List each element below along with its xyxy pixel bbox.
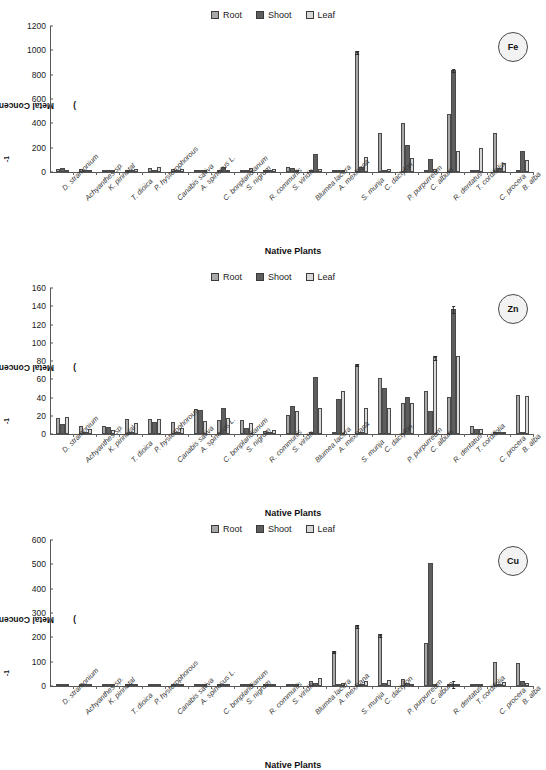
x-axis-labels-zn: D. stramoniumAchyanthes sp.K. pinnatalT.… [51,448,534,506]
legend-item-leaf: Leaf [306,524,336,534]
legend-item-root: Root [211,272,242,282]
bar-leaf [157,167,162,172]
x-axis-title-fe: Native Plants [0,244,546,256]
legend-fe: Root Shoot Leaf [0,0,546,26]
y-tick-label: 140 [32,301,46,311]
bar-root [516,395,521,434]
bar-root [355,52,360,172]
legend-item-leaf: Leaf [306,272,336,282]
bar-leaf [65,170,70,172]
bar-leaf [65,417,70,434]
bar-group [212,540,235,686]
bar-groups-fe [51,26,534,172]
bar-group [304,288,327,434]
legend-item-shoot: Shoot [256,272,292,282]
bar-leaf [525,683,530,686]
error-bar [332,651,336,654]
y-tick-label: 300 [32,608,46,618]
element-badge-zn: Zn [498,294,528,324]
legend-label-root: Root [223,524,242,534]
bar-group [120,540,143,686]
y-tick-label: 100 [32,338,46,348]
y-tick-label: 20 [37,411,46,421]
y-tick-label: 1200 [27,21,46,31]
error-bar [355,51,359,55]
bar-leaf [456,356,461,434]
bar-leaf [318,169,323,172]
bar-group [304,540,327,686]
bar-group [396,540,419,686]
legend-swatch-root-icon [211,273,219,281]
x-axis-labels-fe: D. stramoniumAchyanthes sp.K. pinnatalT.… [51,186,534,244]
bar-leaf [525,396,530,434]
error-bar [452,69,456,72]
error-bar [433,356,437,361]
bar-group [281,26,304,172]
y-axis-ticks-cu: 0100200300400500600 [14,540,50,686]
y-tick-label: 200 [32,143,46,153]
y-tick-label: 100 [32,657,46,667]
bar-group [97,26,120,172]
bar-group [74,26,97,172]
bar-leaf [157,684,162,686]
y-tick-label: 80 [37,356,46,366]
element-badge-fe: Fe [498,32,528,62]
legend-label-shoot: Shoot [268,10,292,20]
bar-group [166,540,189,686]
legend-item-root: Root [211,10,242,20]
legend-cu: Root Shoot Leaf [0,514,546,540]
y-tick-label: 500 [32,559,46,569]
legend-item-root: Root [211,524,242,534]
bar-group [442,26,465,172]
bar-root [378,635,383,686]
bar-group [143,26,166,172]
bar-leaf [88,684,93,686]
bar-group [74,540,97,686]
bar-group [373,288,396,434]
legend-swatch-shoot-icon [256,525,264,533]
bar-group [304,26,327,172]
legend-label-leaf: Leaf [318,272,336,282]
y-tick-label: 800 [32,70,46,80]
legend-label-root: Root [223,272,242,282]
y-tick-label: 0 [41,681,46,691]
bar-group [51,288,74,434]
legend-swatch-leaf-icon [306,525,314,533]
legend-label-root: Root [223,10,242,20]
bar-group [120,26,143,172]
bar-group [212,288,235,434]
error-bar [355,625,359,629]
plot-area-zn: Metal Concentration (mg kg-1) 0204060801… [0,288,546,448]
bar-group [235,26,258,172]
legend-swatch-root-icon [211,11,219,19]
bar-group [350,26,373,172]
bar-leaf [180,684,185,686]
bar-group [258,540,281,686]
bar-group [419,540,442,686]
bar-leaf [157,419,162,434]
bar-group [258,288,281,434]
bar-leaf [525,160,530,172]
legend-swatch-root-icon [211,525,219,533]
bar-group [51,540,74,686]
bar-group [396,288,419,434]
bar-leaf [226,684,231,686]
bar-group [166,288,189,434]
y-tick-label: 40 [37,393,46,403]
bar-leaf [502,432,507,434]
bar-leaf [318,678,323,686]
bar-group [258,26,281,172]
bar-groups-zn [51,288,534,434]
error-bar [378,634,382,638]
bar-leaf [88,170,93,172]
error-bar [452,306,456,313]
bar-leaf [479,148,484,172]
legend-zn: Root Shoot Leaf [0,262,546,288]
y-axis-ticks-fe: 020040060080010001200 [14,26,50,172]
bar-leaf [272,684,277,686]
bar-group [350,540,373,686]
bar-leaf [456,684,461,686]
bar-group [419,26,442,172]
bar-leaf [456,151,461,172]
